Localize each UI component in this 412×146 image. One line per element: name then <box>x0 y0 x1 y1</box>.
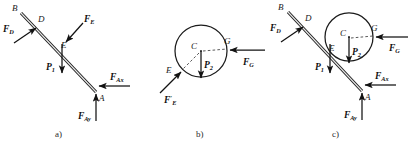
force-label-fd-a: FD <box>2 24 14 35</box>
force-label-fe-a: FE <box>83 14 95 25</box>
svg-text:FG: FG <box>388 43 400 54</box>
point-label-g-c: G <box>371 23 378 33</box>
panel-c: B D C G E A FD P1 <box>269 2 408 139</box>
force-arrow-fe-a <box>66 23 83 42</box>
force-arrow-fd-a <box>14 28 36 43</box>
point-label-e-c: E <box>328 43 335 53</box>
force-arrow-fd-c <box>281 27 303 42</box>
panel-a: B D E A FD FE <box>2 3 130 139</box>
svg-text:P2: P2 <box>204 60 213 71</box>
panel-caption-c: c) <box>332 129 339 139</box>
force-label-fe-prime-b: F′E <box>163 94 176 107</box>
point-label-c-c: C <box>340 28 347 38</box>
force-label-fay-a: FAy <box>77 111 91 122</box>
svg-text:P1: P1 <box>46 62 55 73</box>
panel-caption-a: a) <box>55 129 62 139</box>
force-arrow-fe-prime-b <box>160 72 181 93</box>
force-label-fay-c: FAy <box>343 110 357 121</box>
force-label-fax-c: FAx <box>374 71 389 82</box>
force-label-p2-b: P2 <box>204 60 213 71</box>
force-label-fd-c: FD <box>269 23 281 34</box>
figure-root: B D E A FD FE <box>0 0 412 146</box>
svg-text:FAx: FAx <box>374 71 389 82</box>
svg-text:FAx: FAx <box>109 72 124 83</box>
svg-text:P1: P1 <box>315 62 324 73</box>
point-label-g-b: G <box>224 36 231 46</box>
force-label-fax-a: FAx <box>109 72 124 83</box>
svg-text:FE: FE <box>83 14 95 25</box>
point-label-a-a: A <box>98 93 105 103</box>
svg-text:FG: FG <box>242 57 254 68</box>
point-label-a-c: A <box>364 92 371 102</box>
svg-text:F′E: F′E <box>163 94 176 107</box>
svg-text:FAy: FAy <box>343 110 357 121</box>
point-label-e-b: E <box>165 65 172 75</box>
panel-caption-b: b) <box>196 129 204 139</box>
point-label-b-c: B <box>278 2 284 12</box>
radius-dash-ce-b <box>182 53 199 70</box>
svg-text:FD: FD <box>2 24 14 35</box>
svg-text:FD: FD <box>269 23 281 34</box>
force-label-fg-b: FG <box>242 57 254 68</box>
force-label-p1-a: P1 <box>46 62 55 73</box>
force-label-p2-c: P2 <box>352 47 361 58</box>
rod-ba-c <box>288 12 362 91</box>
svg-text:FAy: FAy <box>77 111 91 122</box>
rod-ba-a <box>21 13 96 92</box>
radius-dash-cg-b <box>203 49 227 51</box>
point-label-c-b: C <box>191 41 198 51</box>
force-label-fg-c: FG <box>388 43 400 54</box>
point-label-d-a: D <box>37 14 45 24</box>
radius-dash-cg-c <box>351 36 373 38</box>
panel-b: C G E P2 FG <box>160 25 265 139</box>
force-label-p1-c: P1 <box>315 62 324 73</box>
point-label-d-c: D <box>304 13 312 23</box>
physics-figure-svg: B D E A FD FE <box>0 0 412 146</box>
point-label-b-a: B <box>12 3 18 13</box>
svg-text:P2: P2 <box>352 47 361 58</box>
